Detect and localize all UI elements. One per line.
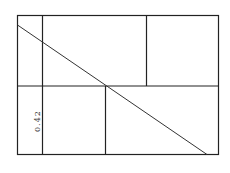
partition-diagram: 0.42	[0, 0, 230, 173]
outer-frame	[18, 16, 219, 155]
value-label: 0.42	[33, 110, 42, 132]
diagonal-line	[18, 25, 208, 155]
